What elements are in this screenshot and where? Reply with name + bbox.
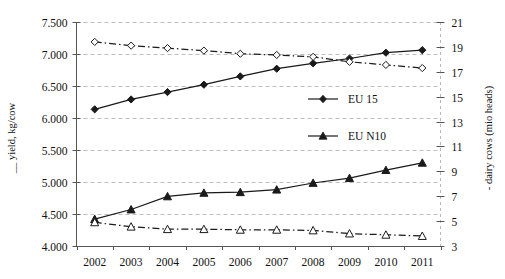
left-axis-title: __ yield, kg/cow [6, 102, 17, 174]
right-tick-label: 7 [452, 191, 458, 203]
left-tick-label: 5.000 [42, 177, 68, 189]
legend-label-eu15: EU 15 [348, 93, 378, 105]
x-tick-label: 2008 [302, 256, 325, 268]
left-tick-label: 4.500 [42, 209, 68, 221]
right-tick-label: 17 [452, 67, 464, 79]
left-tick-label: 7.000 [42, 49, 68, 61]
left-tick-label: 7.500 [42, 17, 68, 29]
x-tick-label: 2004 [156, 256, 179, 268]
x-tick-label: 2010 [374, 256, 397, 268]
right-tick-label: 11 [452, 141, 463, 153]
right-tick-label: 15 [452, 92, 464, 104]
x-tick-label: 2005 [192, 256, 215, 268]
right-tick-label: 5 [452, 216, 458, 228]
right-axis-title: - dairy cows (mio heads) [483, 85, 495, 190]
x-tick-label: 2009 [338, 256, 361, 268]
right-axis-title-group: - dairy cows (mio heads) [483, 85, 495, 190]
line-chart: 4.0004.5005.0005.5006.0006.5007.0007.500… [0, 0, 505, 279]
x-tick-label: 2007 [265, 256, 288, 268]
x-tick-label: 2006 [229, 256, 252, 268]
left-tick-label: 6.500 [42, 81, 68, 93]
left-axis-title-group: __ yield, kg/cow [6, 102, 17, 174]
chart-background [0, 0, 505, 279]
chart-container: 4.0004.5005.0005.5006.0006.5007.0007.500… [0, 0, 505, 279]
x-tick-label: 2011 [411, 256, 434, 268]
left-tick-label: 5.500 [42, 145, 68, 157]
right-tick-label: 21 [452, 17, 464, 29]
right-tick-label: 19 [452, 42, 464, 54]
right-tick-label: 3 [452, 241, 458, 253]
x-tick-label: 2002 [83, 256, 106, 268]
left-tick-label: 6.000 [42, 113, 68, 125]
right-tick-label: 9 [452, 166, 458, 178]
x-tick-label: 2003 [120, 256, 143, 268]
left-tick-label: 4.000 [42, 241, 68, 253]
legend-label-eun10: EU N10 [348, 130, 386, 142]
right-tick-label: 13 [452, 117, 464, 129]
